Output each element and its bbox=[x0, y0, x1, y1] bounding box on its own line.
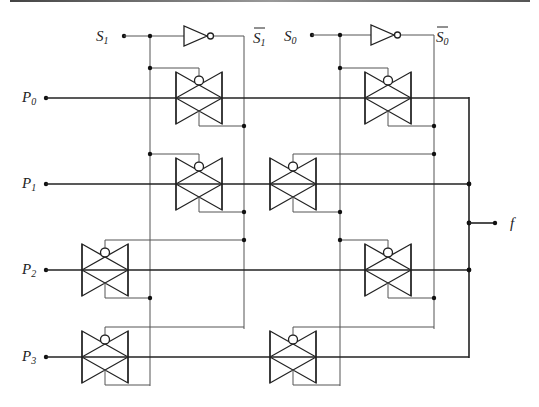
p0-label: P0 bbox=[21, 89, 36, 107]
s1-bar-label: S1 bbox=[253, 30, 266, 48]
tg-top-control-wire bbox=[150, 154, 199, 162]
tg-top-control-wire bbox=[340, 68, 388, 76]
tg-inversion-bubble bbox=[384, 76, 393, 85]
junction-dot bbox=[148, 66, 152, 70]
data-inputs: P0 P1 P2 P3 bbox=[21, 89, 48, 366]
top-rule bbox=[10, 0, 530, 2]
p3-label: P3 bbox=[21, 348, 36, 366]
junction-dot bbox=[242, 124, 246, 128]
output-f-label: f bbox=[510, 215, 516, 231]
f-terminal bbox=[493, 221, 497, 225]
junction-dot bbox=[338, 238, 342, 242]
output-bus: f bbox=[467, 97, 516, 358]
junction-dot bbox=[148, 296, 152, 300]
tg-inversion-bubble bbox=[195, 76, 204, 85]
s1-inverter-icon bbox=[184, 26, 207, 46]
tg-inversion-bubble bbox=[384, 248, 393, 257]
s1-inverter-bubble bbox=[208, 33, 214, 39]
junction-dot bbox=[242, 210, 246, 214]
s1-label: S1 bbox=[96, 28, 109, 46]
junction-dot bbox=[432, 152, 436, 156]
tg-top-control-wire bbox=[150, 68, 199, 76]
s0-inverter-bubble bbox=[395, 32, 401, 38]
tg-inversion-bubble bbox=[289, 335, 298, 344]
s0-bar-label: S0 bbox=[436, 29, 449, 47]
p1-label: P1 bbox=[21, 175, 36, 193]
transmission-gates bbox=[82, 72, 411, 383]
s0-label: S0 bbox=[284, 28, 297, 46]
tg-inversion-bubble bbox=[101, 335, 110, 344]
junction-dot bbox=[242, 238, 246, 242]
junction-dot bbox=[148, 152, 152, 156]
tg-inversion-bubble bbox=[289, 162, 298, 171]
tg-top-control-wire bbox=[340, 240, 388, 248]
s0-inverter-icon bbox=[371, 25, 394, 45]
mux-circuit-diagram: S1 S1 S0 S0 P0 P1 P2 P3 bbox=[0, 0, 539, 407]
tg-inversion-bubble bbox=[195, 162, 204, 171]
p2-label: P2 bbox=[21, 261, 36, 279]
junction-dot bbox=[338, 210, 342, 214]
junction-dot bbox=[432, 296, 436, 300]
junction-dot bbox=[338, 66, 342, 70]
data-wires bbox=[46, 98, 469, 357]
tg-inversion-bubble bbox=[101, 248, 110, 257]
junction-dot bbox=[432, 124, 436, 128]
